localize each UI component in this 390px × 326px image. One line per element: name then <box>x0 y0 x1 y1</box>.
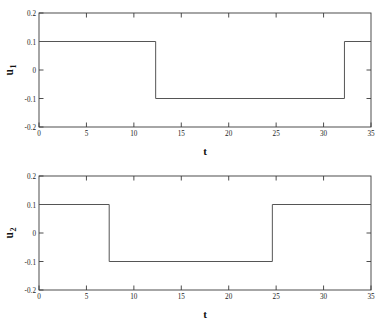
svg-text:u2: u2 <box>3 228 18 239</box>
x-tick-label-u1-5: 25 <box>273 130 281 138</box>
x-tick-label-u2-3: 15 <box>178 293 186 301</box>
x-tick-label-u2-7: 35 <box>367 293 375 301</box>
x-tick-label-u2-5: 25 <box>273 293 281 301</box>
x-tick-label-u2-0: 0 <box>37 293 41 301</box>
chart-panel-u1: u1 0.2 0.1 0 -0.1 -0.2 <box>0 0 390 163</box>
svg-text:u1: u1 <box>3 65 18 76</box>
x-tick-label-u1-4: 20 <box>225 130 233 138</box>
y-tick-label-u1-0: 0.2 <box>27 10 36 18</box>
x-tick-label-u1-6: 30 <box>320 130 328 138</box>
axis-frame-u1 <box>39 13 371 127</box>
y-axis-title-u1-sub: 1 <box>9 65 18 69</box>
y-axis-title-u1: u1 <box>3 65 18 76</box>
y-tick-label-u2-0: 0.2 <box>27 173 36 181</box>
figure-container: u1 0.2 0.1 0 -0.1 -0.2 <box>0 0 390 326</box>
x-tick-label-u2-1: 5 <box>85 293 89 301</box>
y-tick-label-u2-1: 0.1 <box>27 202 36 210</box>
x-tick-label-u1-1: 5 <box>85 130 89 138</box>
plot-area-u1: u1 0.2 0.1 0 -0.1 -0.2 <box>0 0 390 163</box>
x-tick-label-u1-7: 35 <box>367 130 375 138</box>
x-axis-title-u2: t <box>203 308 207 320</box>
data-series-u2 <box>39 205 371 262</box>
y-ticks-u2 <box>39 176 371 290</box>
data-series-u1 <box>39 42 371 99</box>
y-tick-label-u2-3: -0.1 <box>25 259 37 267</box>
x-tick-label-u2-4: 20 <box>225 293 233 301</box>
y-ticks-u1 <box>39 13 371 127</box>
y-axis-title-u2: u2 <box>3 228 18 239</box>
x-tick-label-u1-2: 10 <box>130 130 138 138</box>
y-tick-label-u2-4: -0.2 <box>25 287 37 295</box>
x-tick-label-u1-3: 15 <box>178 130 186 138</box>
y-axis-title-u2-sub: 2 <box>9 228 18 232</box>
x-ticks-u2 <box>39 176 371 290</box>
x-tick-label-u2-2: 10 <box>130 293 138 301</box>
chart-panel-u2: u2 0.2 0.1 0 -0.1 -0.2 <box>0 163 390 326</box>
plot-area-u2: u2 0.2 0.1 0 -0.1 -0.2 <box>0 163 390 326</box>
x-axis-title-u1: t <box>203 145 207 157</box>
x-ticks-u1 <box>39 13 371 127</box>
y-tick-label-u2-2: 0 <box>32 230 36 238</box>
y-tick-label-u1-3: -0.1 <box>25 96 37 104</box>
y-tick-label-u1-1: 0.1 <box>27 39 36 47</box>
x-tick-label-u1-0: 0 <box>37 130 41 138</box>
y-tick-label-u1-2: 0 <box>32 67 36 75</box>
x-tick-label-u2-6: 30 <box>320 293 328 301</box>
axis-frame-u2 <box>39 176 371 290</box>
y-tick-label-u1-4: -0.2 <box>25 124 37 132</box>
